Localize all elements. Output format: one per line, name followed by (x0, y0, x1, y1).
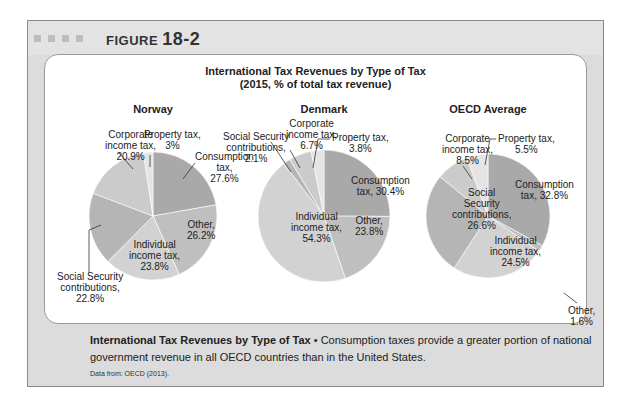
label-denmark-individual: Individualincome tax,54.3% (291, 211, 342, 244)
caption-title: International Tax Revenues by Type of Ta… (90, 334, 311, 346)
label-denmark-other: Other,23.8% (355, 215, 383, 237)
label-denmark-consumption: Consumptiontax, 30.4% (351, 175, 410, 197)
figure-header: FIGURE 18-2 (28, 21, 603, 55)
caption-bullet: • (311, 334, 321, 346)
figure-caption: International Tax Revenues by Type of Ta… (90, 332, 600, 366)
chart-panel: International Tax Revenues by Type of Ta… (44, 54, 587, 324)
label-oecd-individual: Individualincome tax,24.5% (490, 235, 541, 268)
label-oecd-social: SocialSecuritycontributions,26.6% (452, 187, 511, 231)
figure-number: 18-2 (162, 29, 200, 49)
label-norway-property: Property tax,3% (144, 129, 201, 151)
label-norway-other: Other,26.2% (187, 219, 215, 241)
figure-label: FIGURE (106, 33, 158, 48)
header-squares (34, 35, 83, 42)
label-norway-individual: Individualincome tax,23.8% (129, 239, 180, 272)
decor-square-icon (48, 35, 55, 42)
label-denmark-social: Social Securitycontributions,2.1% (223, 131, 289, 164)
data-source: Data from: OECD (2013). (90, 370, 169, 377)
label-denmark-corporate: Corporateincome tax,6.7% (286, 118, 337, 151)
label-oecd-corporate: Corporateincome tax,8.5% (442, 133, 493, 166)
figure-title: FIGURE 18-2 (106, 29, 200, 50)
decor-square-icon (76, 35, 83, 42)
label-norway-social: Social Securitycontributions,22.8% (57, 271, 123, 304)
label-oecd-other: Other,1.6% (568, 305, 595, 327)
label-oecd-property: Property tax,5.5% (498, 133, 555, 155)
decor-square-icon (62, 35, 69, 42)
decor-square-icon (34, 35, 41, 42)
label-oecd-consumption: Consumptiontax, 32.8% (515, 179, 574, 201)
label-denmark-property: Property tax,3.8% (332, 132, 389, 154)
